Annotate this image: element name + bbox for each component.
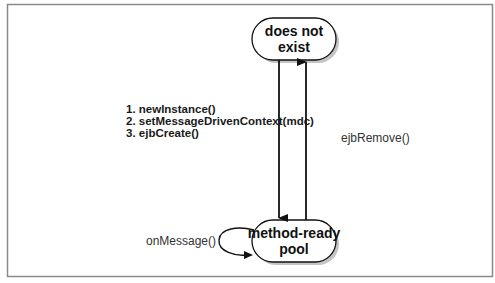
state-label-line-2: pool xyxy=(279,241,309,257)
transition-create: 1. newInstance() 2. setMessageDrivenCont… xyxy=(126,60,314,218)
transition-on-message: onMessage() xyxy=(146,228,254,259)
state-label-line-1: method-ready xyxy=(248,225,341,241)
state-method-ready-pool: method-ready pool xyxy=(248,220,341,265)
state-label-line-2: exist xyxy=(278,39,310,55)
transition-remove: ejbRemove() xyxy=(306,62,410,220)
state-label-line-1: does not xyxy=(265,23,324,39)
state-diagram: does not exist method-ready pool 1. newI… xyxy=(0,0,495,283)
transition-label-step-2: 2. setMessageDrivenContext(mdc) xyxy=(126,115,314,127)
transition-label-remove: ejbRemove() xyxy=(341,131,410,145)
transition-label-on-message: onMessage() xyxy=(146,234,216,248)
state-does-not-exist: does not exist xyxy=(252,18,339,63)
self-loop-arrowhead-icon xyxy=(244,251,253,259)
transition-label-step-1: 1. newInstance() xyxy=(126,103,216,115)
transition-label-step-3: 3. ejbCreate() xyxy=(126,127,199,139)
